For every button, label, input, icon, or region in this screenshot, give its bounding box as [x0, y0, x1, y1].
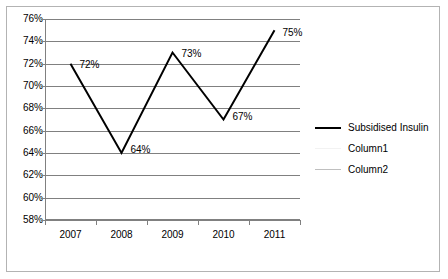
series-line [71, 30, 275, 153]
data-point-label: 67% [233, 112, 253, 122]
y-axis-tick-label: 68% [9, 103, 43, 113]
x-axis-tick-label: 2008 [110, 229, 132, 241]
y-axis-tick-label: 76% [9, 14, 43, 24]
data-point-label: 73% [182, 49, 202, 59]
chart-container: 76%74%72%70%68%66%64%62%60%58% 72%64%73%… [6, 6, 440, 272]
x-axis-tick-label: 2010 [212, 229, 234, 241]
x-axis-tick-label: 2007 [59, 229, 81, 241]
y-axis-tick-label: 74% [9, 36, 43, 46]
y-axis-tick-label: 58% [9, 215, 43, 225]
legend-line-icon [315, 144, 341, 154]
y-axis-tick-label: 72% [9, 59, 43, 69]
x-axis-tick [147, 220, 148, 225]
x-axis-tick-label: 2011 [264, 229, 286, 241]
legend-item-column1[interactable]: Column1 [315, 138, 439, 159]
x-axis-tick [300, 220, 301, 225]
x-axis-labels: 20072008200920102011 [45, 229, 300, 245]
legend-line-icon [315, 165, 341, 175]
legend-label: Subsidised Insulin [341, 122, 429, 133]
y-axis-tick-label: 66% [9, 126, 43, 136]
x-axis-tick [96, 220, 97, 225]
data-point-label: 75% [283, 28, 303, 38]
legend-item-subsidised-insulin[interactable]: Subsidised Insulin [315, 117, 439, 138]
series-subsidised-insulin [45, 19, 300, 220]
legend-label: Column1 [341, 143, 388, 154]
legend-item-column2[interactable]: Column2 [315, 159, 439, 180]
gridline [45, 220, 300, 221]
data-point-label: 72% [80, 60, 100, 70]
legend-line-icon [315, 123, 341, 133]
chart-legend: Subsidised Insulin Column1 Column2 [315, 117, 439, 180]
y-axis-tick-label: 62% [9, 170, 43, 180]
x-axis-tick [198, 220, 199, 225]
y-axis-tick-label: 70% [9, 81, 43, 91]
legend-label: Column2 [341, 164, 388, 175]
x-axis-tick-label: 2009 [161, 229, 183, 241]
x-axis-tick [249, 220, 250, 225]
x-axis-tick [45, 220, 46, 225]
data-point-label: 64% [131, 145, 151, 155]
y-axis-tick-label: 60% [9, 193, 43, 203]
y-axis-labels: 76%74%72%70%68%66%64%62%60%58% [7, 19, 43, 220]
y-axis-tick-label: 64% [9, 148, 43, 158]
